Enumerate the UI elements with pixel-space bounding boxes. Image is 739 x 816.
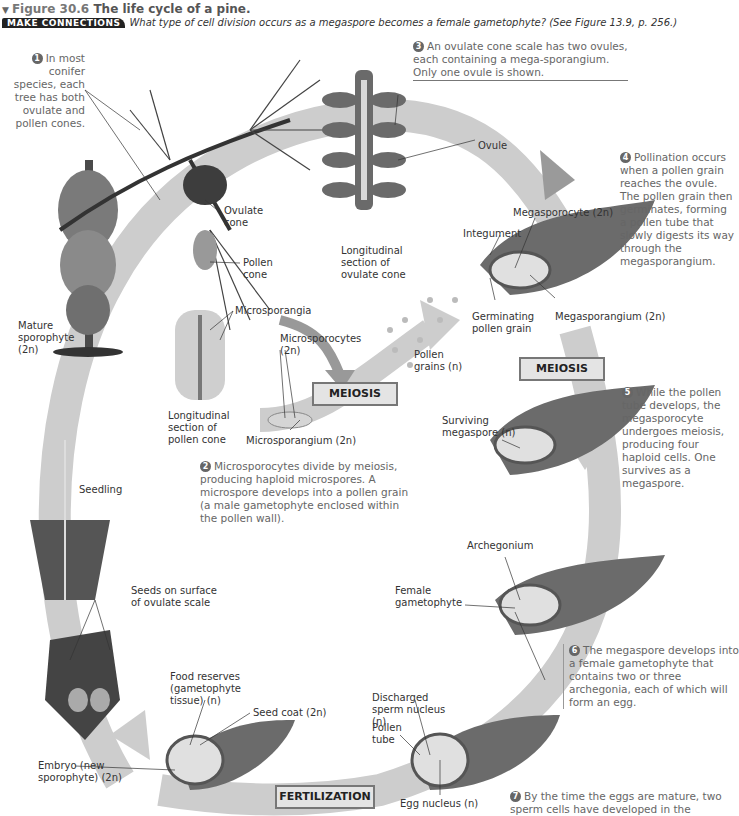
step-7: 7By the time the eggs are mature, two sp… (510, 790, 737, 816)
label-egg-nucleus: Egg nucleus (n) (400, 798, 478, 810)
label-megasporangium: Megasporangium (2n) (555, 311, 665, 323)
arrowhead-right (540, 150, 575, 200)
label-microsporangia: Microsporangia (235, 305, 311, 317)
step-5: 5While the pollen tube develops, the meg… (622, 386, 734, 490)
meiosis-box-pollen: MEIOSIS (312, 382, 398, 406)
label-archegonium: Archegonium (467, 540, 533, 552)
label-pollen-grains: Pollen grains (n) (414, 349, 464, 373)
label-pollen-tube: Pollen tube (372, 722, 407, 746)
label-ovule: Ovule (478, 140, 507, 152)
label-food-reserves: Food reserves (gametophyte tissue) (n) (170, 671, 242, 707)
pollen-cone-graphic (193, 230, 217, 270)
label-pollen-cone: Pollen cone (243, 257, 283, 281)
label-female-gametophyte: Female gametophyte (395, 585, 465, 609)
ovule-seed (167, 720, 295, 790)
label-seeds-on-surface: Seeds on surface of ovulate scale (131, 585, 221, 609)
label-microsporocytes: Microsporocytes (2n) (280, 333, 370, 357)
fertilization-box: FERTILIZATION (275, 785, 375, 809)
label-longitudinal-ovulate-cone: Longitudinal section of ovulate cone (341, 245, 413, 281)
microsporangium-graphic (268, 412, 312, 428)
label-megasporocyte: Megasporocyte (2n) (513, 207, 613, 219)
label-mature-sporophyte: Mature sporophyte (2n) (18, 320, 83, 356)
step-3: 3An ovulate cone scale has two ovules, e… (413, 40, 628, 81)
step-1: 1In most conifer species, each tree has … (5, 52, 85, 130)
step-2: 2Microsporocytes divide by meiosis, prod… (200, 460, 415, 525)
step-4: 4Pollination occurs when a pollen grain … (620, 151, 735, 268)
label-seedling: Seedling (79, 484, 122, 496)
label-longitudinal-pollen-cone: Longitudinal section of pollen cone (168, 410, 238, 446)
label-seed-coat: Seed coat (2n) (253, 707, 327, 719)
label-microsporangium: Microsporangium (2n) (246, 435, 356, 447)
ovulate-cone-graphic (183, 165, 227, 205)
meiosis-box-ovule: MEIOSIS (519, 357, 605, 381)
label-germinating-pollen-grain: Germinating pollen grain (472, 311, 552, 335)
label-surviving-megaspore: Surviving megaspore (n) (442, 415, 522, 439)
label-integument: Integument (463, 228, 521, 240)
label-ovulate-cone: Ovulate cone (224, 205, 264, 229)
label-embryo: Embryo (new sporophyte) (2n) (38, 760, 128, 784)
step-6: 6The megaspore develops into a female ga… (563, 644, 739, 709)
